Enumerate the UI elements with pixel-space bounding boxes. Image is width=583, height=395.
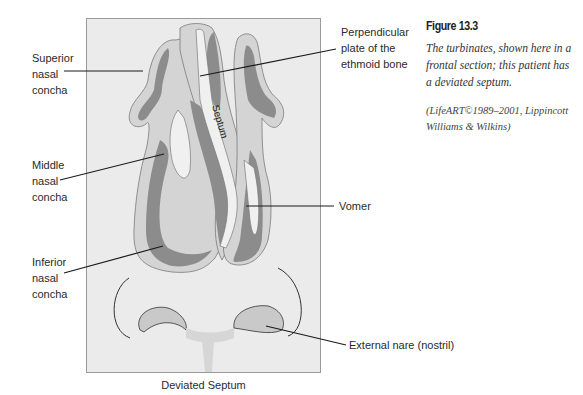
label-line: plate of the [341, 40, 409, 56]
figure-title: Figure 13.3 [426, 18, 478, 33]
label-middle-nasal-concha: Middle nasal concha [32, 157, 67, 205]
label-line: Superior [32, 50, 74, 66]
label-line: Inferior [32, 254, 67, 270]
figure-credit: (LifeART©1989–2001, Lippincott Williams … [426, 103, 576, 135]
label-line: concha [32, 286, 67, 302]
label-perpendicular-plate: Perpendicular plate of the ethmoid bone [341, 24, 409, 72]
left-ala-outline [114, 278, 130, 338]
diagram-caption: Deviated Septum [86, 379, 321, 391]
label-line: nasal [32, 66, 74, 82]
label-vomer: Vomer [339, 198, 371, 214]
left-nostril-shape [139, 307, 187, 332]
label-line: ethmoid bone [341, 56, 409, 72]
label-line: concha [32, 82, 74, 98]
leader-external-nare [266, 326, 346, 345]
label-line: nasal [32, 270, 67, 286]
label-line: Perpendicular [341, 24, 409, 40]
figure-description: The turbinates, shown here in a frontal … [426, 40, 576, 91]
label-superior-nasal-concha: Superior nasal concha [32, 50, 74, 98]
label-inferior-nasal-concha: Inferior nasal concha [32, 254, 67, 302]
label-line: nasal [32, 173, 67, 189]
label-external-nare: External nare (nostril) [349, 337, 454, 353]
label-line: concha [32, 189, 67, 205]
label-line: Middle [32, 157, 67, 173]
